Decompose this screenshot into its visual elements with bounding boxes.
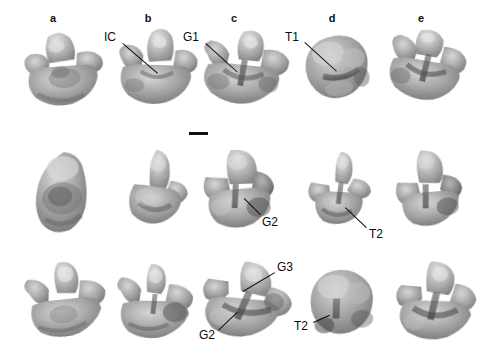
specimen-e1 (379, 17, 476, 112)
annotation-label-t1: T1 (285, 31, 299, 44)
specimen-b3 (112, 261, 199, 342)
specimen-a2 (28, 146, 107, 240)
annotation-label-ic: IC (104, 31, 116, 44)
column-letter-e: e (411, 12, 431, 24)
specimen-c1 (192, 21, 296, 115)
specimen-e2 (388, 143, 469, 233)
specimen-d1 (295, 25, 383, 109)
specimen-a3 (18, 254, 116, 347)
annotation-label-g2-row3: G2 (199, 329, 215, 342)
column-letter-b: b (138, 12, 158, 24)
column-letter-d: d (322, 12, 342, 24)
figure-plate: a b c d e IC G1 T1 G2 T2 G3 G2 T2 (0, 0, 485, 357)
specimen-d2 (303, 146, 379, 232)
specimen-e3 (388, 254, 481, 347)
annotation-label-t2-row3: T2 (294, 320, 308, 333)
scale-bar (189, 132, 208, 135)
specimen-b2 (121, 144, 197, 235)
annotation-label-g1: G1 (183, 31, 199, 44)
specimen-d3 (300, 263, 385, 344)
column-letter-a: a (43, 12, 63, 24)
annotation-label-t2-row2: T2 (369, 228, 383, 241)
column-letter-c: c (224, 12, 244, 24)
specimen-a1 (17, 23, 115, 113)
annotation-label-g3-row3: G3 (277, 261, 293, 274)
annotation-label-g2-row2: G2 (262, 216, 278, 229)
